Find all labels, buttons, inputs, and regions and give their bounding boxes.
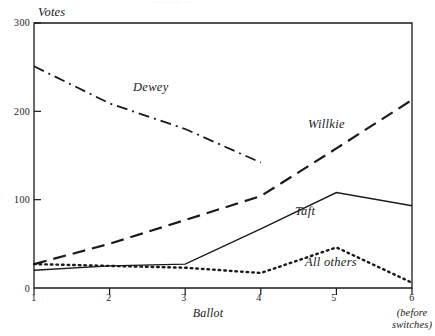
series-label-taft: Taft [295,204,315,219]
vote-chart-figure: .... .. .... ... Votes 300 200 100 0 1 2… [0,0,435,336]
x-axis-title: Ballot [178,306,238,321]
series-label-dewey: Dewey [133,80,169,95]
y-tick-marks [34,23,41,288]
x-tick-label-2: 2 [99,292,119,303]
y-axis-title: Votes [38,5,65,20]
x-axis-note-line2: switches) [377,319,435,331]
plot-frame [34,23,412,288]
series-line-willkie [34,100,412,264]
y-tick-label-100: 100 [4,194,30,205]
y-tick-label-300: 300 [4,17,30,28]
x-tick-label-1: 1 [24,292,44,303]
x-axis-note-line1: (before [377,307,435,319]
series-label-all-others: All others [305,255,357,270]
data-series-group [34,66,412,282]
x-tick-marks [34,288,412,295]
plot-area [0,0,435,336]
y-tick-label-200: 200 [4,106,30,117]
x-tick-label-6: 6 [402,292,422,303]
series-label-willkie: Willkie [308,117,345,132]
x-tick-label-5: 5 [324,292,344,303]
x-tick-label-4: 4 [249,292,269,303]
x-tick-label-3: 3 [174,292,194,303]
page-top-text-fragment: .... .. .... ... [150,0,360,6]
